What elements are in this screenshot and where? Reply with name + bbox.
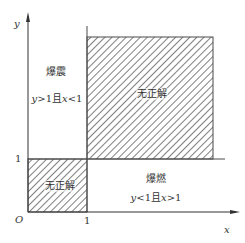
x-tick-label-1: 1 [84, 215, 90, 227]
y-tick-label-1: 1 [15, 153, 21, 165]
diagram-canvas [0, 0, 245, 243]
deflagration-condition: y<1y<1且x>1且x>1 [131, 192, 182, 204]
origin-label: O [15, 214, 23, 226]
x-axis-arrow-icon [230, 210, 240, 214]
x-axis-label: x [224, 224, 230, 236]
no-solution-small-label: 无正解 [44, 180, 76, 192]
detonation-title: 爆震 [46, 66, 66, 78]
region-diagram: y x O 1 1 爆震 y>1y>1且x<1且x<1 无正解 爆燃 y<1y<… [0, 0, 245, 243]
no-solution-large-label: 无正解 [136, 88, 168, 100]
y-axis-label: y [14, 18, 20, 30]
y-axis-arrow-icon [26, 12, 30, 22]
detonation-condition: y>1y>1且x<1且x<1 [32, 93, 83, 105]
deflagration-title: 爆燃 [146, 173, 166, 185]
